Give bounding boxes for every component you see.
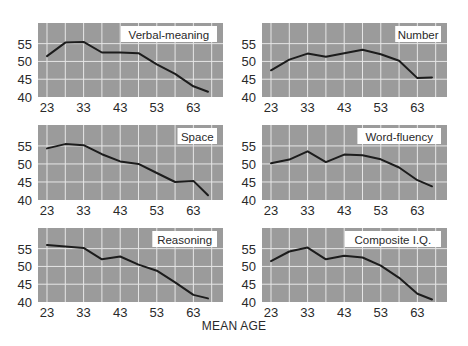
y-tick-label: 55: [18, 242, 32, 257]
x-tick-label: 53: [150, 203, 164, 218]
panel-title: Space: [181, 131, 214, 143]
x-tick-label: 63: [186, 100, 200, 115]
x-tick-label: 33: [300, 100, 314, 115]
panel-verbal-meaning: 404550552333435363Verbal-meaning: [18, 23, 223, 115]
y-tick-label: 40: [18, 193, 32, 208]
x-tick-label: 33: [76, 305, 90, 320]
x-tick-label: 33: [300, 203, 314, 218]
panel-number: 404550552333435363Number: [242, 23, 447, 115]
x-tick-label: 33: [76, 203, 90, 218]
x-tick-label: 53: [374, 203, 388, 218]
panel-space: 404550552333435363Space: [18, 125, 223, 218]
x-tick-label: 33: [76, 100, 90, 115]
x-tick-label: 63: [410, 305, 424, 320]
y-tick-label: 55: [242, 242, 256, 257]
y-tick-label: 45: [242, 72, 256, 87]
small-multiples-chart: 404550552333435363Verbal-meaning40455055…: [0, 0, 468, 346]
panel-composite-iq: 404550552333435363Composite I.Q.: [242, 228, 447, 320]
x-tick-label: 43: [337, 203, 351, 218]
y-tick-label: 45: [18, 72, 32, 87]
x-tick-label: 23: [264, 305, 278, 320]
x-tick-label: 43: [113, 203, 127, 218]
x-tick-label: 43: [113, 100, 127, 115]
y-tick-label: 40: [18, 90, 32, 105]
x-tick-label: 43: [113, 305, 127, 320]
panel-title: Composite I.Q.: [355, 234, 432, 246]
panel-title: Word-fluency: [365, 131, 433, 143]
y-tick-label: 50: [18, 259, 32, 274]
y-tick-label: 45: [18, 277, 32, 292]
figure: 404550552333435363Verbal-meaning40455055…: [0, 0, 468, 346]
x-tick-label: 53: [374, 100, 388, 115]
x-tick-label: 23: [40, 203, 54, 218]
x-tick-label: 53: [150, 305, 164, 320]
y-tick-label: 50: [18, 157, 32, 172]
x-tick-label: 33: [300, 305, 314, 320]
y-tick-label: 45: [18, 175, 32, 190]
x-tick-label: 63: [410, 203, 424, 218]
panel-title: Number: [398, 29, 439, 41]
x-tick-label: 23: [264, 100, 278, 115]
x-tick-label: 53: [150, 100, 164, 115]
x-tick-label: 43: [337, 100, 351, 115]
x-tick-label: 23: [264, 203, 278, 218]
y-tick-label: 40: [242, 193, 256, 208]
x-tick-label: 63: [186, 305, 200, 320]
y-tick-label: 50: [18, 54, 32, 69]
y-tick-label: 50: [242, 54, 256, 69]
x-tick-label: 23: [40, 100, 54, 115]
y-tick-label: 50: [242, 259, 256, 274]
x-tick-label: 43: [337, 305, 351, 320]
y-tick-label: 40: [242, 90, 256, 105]
x-tick-label: 23: [40, 305, 54, 320]
x-tick-label: 63: [410, 100, 424, 115]
y-tick-label: 45: [242, 277, 256, 292]
x-tick-label: 63: [186, 203, 200, 218]
panel-title: Verbal-meaning: [129, 29, 210, 41]
y-tick-label: 55: [18, 139, 32, 154]
panel-title: Reasoning: [157, 234, 212, 246]
y-tick-label: 55: [242, 37, 256, 52]
y-tick-label: 40: [242, 295, 256, 310]
y-tick-label: 40: [18, 295, 32, 310]
y-tick-label: 50: [242, 157, 256, 172]
panel-reasoning: 404550552333435363Reasoning: [18, 228, 223, 320]
panel-word-fluency: 404550552333435363Word-fluency: [242, 125, 447, 218]
y-tick-label: 55: [18, 37, 32, 52]
y-tick-label: 45: [242, 175, 256, 190]
y-tick-label: 55: [242, 139, 256, 154]
x-axis-title: MEAN AGE: [0, 319, 468, 333]
x-tick-label: 53: [374, 305, 388, 320]
